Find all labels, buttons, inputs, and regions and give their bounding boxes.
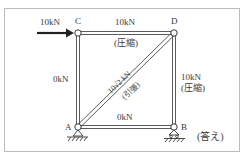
member-cd-state: (圧縮) [114, 38, 138, 48]
answer-label: (答え) [197, 132, 224, 142]
node-label-d: D [171, 16, 178, 26]
member-bd-state: (圧縮) [181, 83, 205, 93]
member-ac [77, 33, 80, 127]
node-c [75, 30, 81, 36]
load-arrow-icon [37, 29, 74, 38]
member-bd-force: 10kN [181, 72, 201, 82]
member-ab [78, 126, 174, 129]
member-ab-force: 0kN [117, 112, 133, 122]
member-cd [78, 32, 174, 35]
load-label: 10kN [40, 17, 60, 27]
member-cd-force: 10kN [115, 17, 135, 27]
node-d [171, 30, 177, 36]
member-ac-force: 0kN [53, 74, 69, 84]
node-label-a: A [65, 122, 72, 132]
node-label-b: B [181, 122, 187, 132]
member-bd [173, 33, 176, 127]
node-b [171, 124, 177, 130]
node-label-c: C [75, 16, 81, 26]
node-a [75, 124, 81, 130]
